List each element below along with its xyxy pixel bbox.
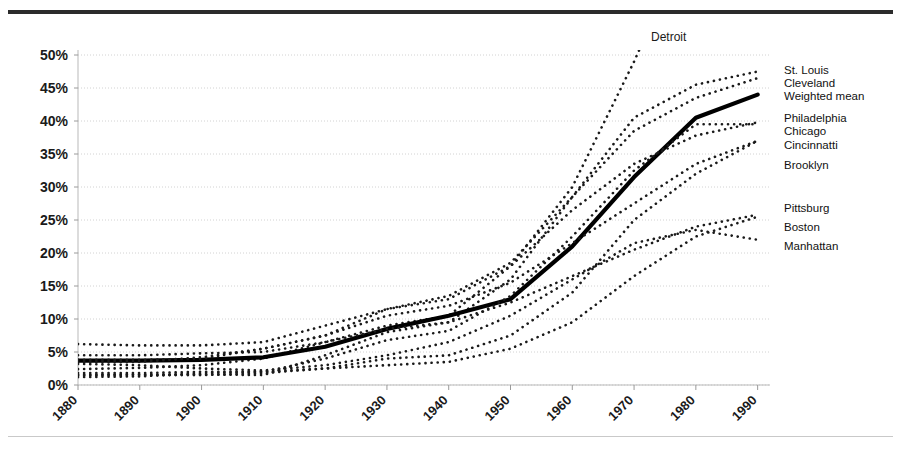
series-label-philadelphia: Philadelphia [784,112,847,124]
detroit-series-label: Detroit [651,30,686,44]
chart: 0%5%10%15%20%25%30%35%40%45%50% 18801890… [0,0,901,451]
series-label-boston: Boston [784,221,820,233]
series-label-manhattan: Manhattan [784,240,838,252]
series-label-cleveland: Cleveland [784,77,835,89]
series-label-pittsburg: Pittsburg [784,202,829,214]
series-label-weighted-mean: Weighted mean [784,90,864,102]
series-label-cincinnatti: Cincinnatti [784,139,838,151]
series-label-legend: St. LouisClevelandWeighted meanPhiladelp… [0,0,901,451]
series-label-st-louis: St. Louis [784,64,829,76]
series-label-brooklyn: Brooklyn [784,159,829,171]
figure-container: 0%5%10%15%20%25%30%35%40%45%50% 18801890… [0,0,901,451]
series-label-chicago: Chicago [784,125,826,137]
